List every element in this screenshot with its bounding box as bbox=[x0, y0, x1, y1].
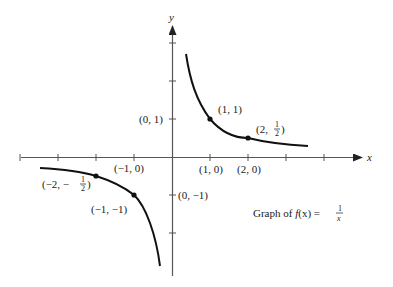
label-neg2-neghalf: (−2, − 1 2 ) bbox=[42, 175, 91, 193]
label-2-half: (2, 1 2 ) bbox=[256, 120, 285, 138]
graph-caption: Graph of f(x) = 1 x bbox=[253, 204, 343, 223]
label-neg1-0: (−1, 0) bbox=[114, 162, 144, 175]
svg-text:2: 2 bbox=[275, 129, 279, 138]
svg-text:1: 1 bbox=[338, 204, 342, 213]
svg-text:Graph of f(x) =: Graph of f(x) = bbox=[253, 207, 320, 220]
y-axis-label: y bbox=[168, 11, 174, 23]
svg-text:x: x bbox=[336, 214, 341, 223]
point-2-half bbox=[245, 135, 250, 140]
label-2-0: (2, 0) bbox=[237, 163, 261, 176]
svg-text:): ) bbox=[281, 123, 285, 136]
x-axis-label: x bbox=[366, 151, 372, 163]
svg-text:(2,: (2, bbox=[256, 123, 268, 136]
label-0-1: (0, 1) bbox=[139, 113, 163, 126]
point-1-1 bbox=[207, 116, 212, 121]
label-neg1-neg1: (−1, −1) bbox=[91, 203, 128, 216]
point-neg1-neg1 bbox=[131, 192, 136, 197]
svg-text:1: 1 bbox=[81, 175, 85, 184]
label-0-neg1: (0, −1) bbox=[178, 189, 208, 202]
label-1-1: (1, 1) bbox=[218, 103, 242, 116]
point-neg2-neghalf bbox=[93, 173, 98, 178]
svg-text:2: 2 bbox=[81, 184, 85, 193]
svg-text:(−2, −: (−2, − bbox=[42, 178, 69, 191]
curve-positive-branch bbox=[186, 54, 308, 146]
label-1-0: (1, 0) bbox=[199, 163, 223, 176]
svg-text:1: 1 bbox=[275, 120, 279, 129]
function-graph: y x (0, 1) (1, 1) (2, 1 2 ) (1, 0) (2, 0… bbox=[0, 0, 393, 287]
svg-text:): ) bbox=[87, 178, 91, 191]
